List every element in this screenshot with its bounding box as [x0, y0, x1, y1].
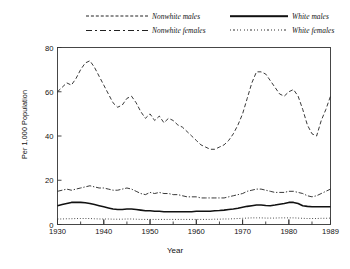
x-tick-label-1980: 1980 — [280, 227, 297, 236]
y-tick-label-80: 80 — [45, 43, 53, 52]
x-tick-label-1940: 1940 — [95, 227, 112, 236]
x-tick-label-1950: 1950 — [142, 227, 159, 236]
y-tick-label-20: 20 — [45, 176, 53, 185]
data-series-layer — [58, 61, 331, 220]
x-tick-label-1970: 1970 — [234, 227, 251, 236]
y-tick-label-40: 40 — [45, 132, 53, 141]
series-line-white-females — [58, 218, 331, 220]
y-axis-title: Per 1,000 Population — [20, 70, 29, 180]
x-tick-label-1989: 1989 — [322, 227, 339, 236]
series-line-white-males — [58, 202, 331, 211]
series-line-nonwhite-males — [58, 61, 331, 150]
series-line-nonwhite-females — [58, 186, 331, 198]
x-tick-label-1930: 1930 — [49, 227, 66, 236]
x-axis-title: Year — [0, 246, 350, 255]
x-tick-label-1960: 1960 — [188, 227, 205, 236]
chart-figure: Nonwhite males White males Nonwhite fema… — [0, 0, 350, 269]
y-tick-label-60: 60 — [45, 87, 53, 96]
